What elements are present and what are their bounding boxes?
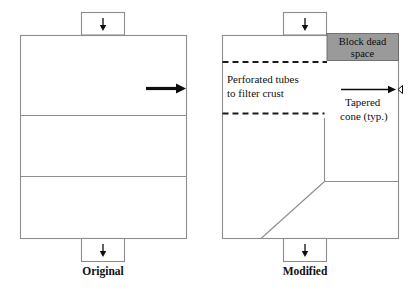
perforated-tubes-label-line1: Perforated tubes: [227, 73, 299, 85]
tapered-cone-label-line2: cone (typ.): [340, 110, 388, 123]
original-inlet-tab: [82, 13, 125, 36]
process-vessel-comparison-diagram: Original Block dead space: [0, 0, 410, 291]
modified-caption: Modified: [283, 265, 328, 277]
block-dead-space-label-line1: Block dead: [339, 36, 387, 47]
panel-original: Original: [21, 13, 187, 279]
perforated-tubes-label-line2: to filter crust: [227, 87, 284, 99]
original-outlet-tab: [82, 239, 125, 262]
modified-outlet-tab: [284, 239, 327, 262]
original-vessel-body-fill: [21, 36, 187, 239]
panel-modified: Block dead space Perforated tubes to fil…: [223, 13, 403, 278]
figure-root: Original Block dead space: [0, 0, 410, 291]
block-dead-space-label-line2: space: [351, 48, 375, 59]
modified-vessel-body-fill: [223, 36, 399, 239]
original-caption: Original: [82, 265, 124, 278]
tapered-cone-label-line1: Tapered: [345, 96, 381, 108]
modified-inlet-tab: [284, 13, 327, 36]
